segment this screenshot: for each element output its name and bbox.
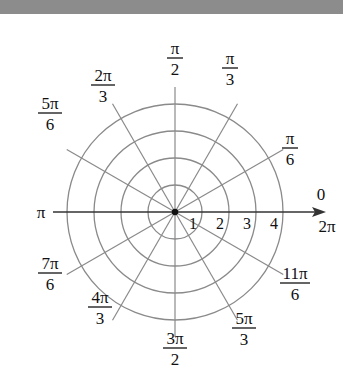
svg-text:6: 6 [46,275,55,294]
angle-label-330: 11π6 [280,264,310,304]
svg-text:5π: 5π [41,94,59,113]
angle-label-270: 3π2 [163,329,187,369]
ring-label-1: 1 [189,215,197,232]
angle-label-60: π3 [222,49,238,89]
ring-label-4: 4 [270,215,278,232]
polar-grid: 1234π2π32π3π65π67π64π33π25π311π602ππ [0,0,360,389]
axis-label-two-pi: 2π [318,217,336,236]
svg-text:π: π [286,129,295,148]
svg-text:3: 3 [96,309,105,328]
angle-label-210: 7π6 [38,254,62,294]
angle-label-120: 2π3 [91,66,115,106]
svg-text:3: 3 [226,70,235,89]
ring-label-3: 3 [243,215,251,232]
svg-text:6: 6 [286,150,295,169]
svg-text:π: π [171,39,180,58]
ring-label-2: 2 [216,215,224,232]
spoke-240 [113,212,176,320]
svg-text:2π: 2π [94,66,112,85]
angle-label-90: π2 [167,39,183,79]
svg-text:3π: 3π [166,329,184,348]
spoke-300 [175,212,238,320]
spoke-210 [67,212,175,275]
svg-text:π: π [226,49,235,68]
axis-label-zero: 0 [317,185,326,204]
spoke-150 [67,150,175,213]
svg-text:11π: 11π [283,264,308,283]
spoke-120 [113,104,176,212]
spoke-30 [175,150,283,213]
spoke-60 [175,104,238,212]
svg-text:6: 6 [46,115,55,134]
svg-text:3: 3 [99,87,108,106]
angle-label-30: π6 [282,129,298,169]
pole-dot [172,209,178,215]
svg-text:2: 2 [171,350,180,369]
angle-label-150: 5π6 [38,94,62,134]
svg-text:3: 3 [240,330,249,349]
svg-text:7π: 7π [41,254,59,273]
svg-text:5π: 5π [235,309,253,328]
angle-label-240: 4π3 [88,288,112,328]
svg-text:2: 2 [171,60,180,79]
svg-text:4π: 4π [91,288,109,307]
angle-label-300: 5π3 [232,309,256,349]
axis-label-pi: π [37,203,46,222]
svg-text:6: 6 [291,285,300,304]
